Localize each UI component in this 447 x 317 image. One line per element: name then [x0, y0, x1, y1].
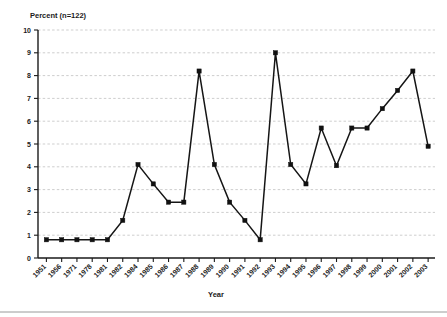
- data-point-marker: [304, 182, 308, 186]
- y-tick-label: 4: [27, 163, 31, 170]
- y-tick-label: 1: [27, 232, 31, 239]
- data-point-marker: [44, 238, 48, 242]
- x-axis-label: Year: [208, 290, 224, 299]
- data-point-marker: [166, 200, 170, 204]
- y-tick-label: 0: [27, 255, 31, 262]
- data-point-marker: [365, 126, 369, 130]
- y-tick-label: 10: [23, 27, 31, 34]
- data-point-marker: [182, 200, 186, 204]
- data-point-marker: [90, 238, 94, 242]
- data-point-marker: [197, 69, 201, 73]
- data-point-marker: [212, 162, 216, 166]
- data-point-marker: [75, 238, 79, 242]
- data-point-marker: [151, 182, 155, 186]
- data-point-marker: [289, 162, 293, 166]
- data-point-marker: [319, 126, 323, 130]
- chart-title: Percent (n=122): [30, 11, 87, 20]
- data-point-marker: [426, 144, 430, 148]
- y-tick-label: 5: [27, 141, 31, 148]
- data-point-marker: [228, 200, 232, 204]
- data-point-marker: [136, 162, 140, 166]
- y-tick-label: 3: [27, 186, 31, 193]
- line-chart: Percent (n=122) 012345678910 19511956197…: [0, 0, 447, 317]
- y-tick-label: 9: [27, 49, 31, 56]
- data-point-marker: [273, 51, 277, 55]
- data-point-marker: [334, 164, 338, 168]
- data-point-marker: [395, 88, 399, 92]
- y-tick-label: 8: [27, 72, 31, 79]
- y-tick-label: 6: [27, 118, 31, 125]
- data-point-marker: [350, 126, 354, 130]
- y-tick-label: 7: [27, 95, 31, 102]
- data-point-marker: [258, 238, 262, 242]
- data-point-marker: [411, 69, 415, 73]
- data-point-marker: [121, 218, 125, 222]
- data-point-marker: [60, 238, 64, 242]
- data-point-marker: [243, 218, 247, 222]
- data-point-marker: [105, 238, 109, 242]
- data-point-marker: [380, 107, 384, 111]
- y-tick-label: 2: [27, 209, 31, 216]
